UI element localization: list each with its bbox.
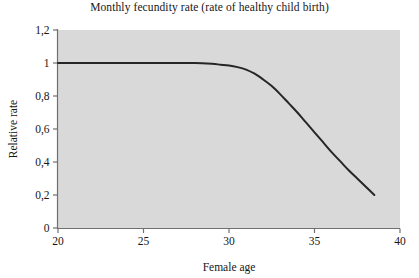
- plot-background: [58, 30, 400, 228]
- y-axis-ticks: 00,20,40,60,811,2: [35, 24, 57, 234]
- x-tick-label: 40: [394, 235, 406, 247]
- x-tick-label: 30: [223, 235, 235, 247]
- x-axis-ticks: 2025303540: [52, 229, 406, 247]
- x-tick-label: 25: [138, 235, 150, 247]
- y-tick-label: 0,6: [35, 123, 50, 136]
- fecundity-rate-line-chart: 00,20,40,60,811,2 2025303540 Female age …: [0, 0, 419, 278]
- y-tick-label: 1: [44, 57, 50, 69]
- chart-container: Monthly fecundity rate (rate of healthy …: [0, 0, 419, 278]
- y-tick-label: 0,4: [35, 156, 50, 169]
- y-tick-label: 0: [44, 222, 50, 234]
- y-tick-label: 0,8: [35, 90, 50, 103]
- y-tick-label: 1,2: [35, 24, 50, 37]
- y-tick-label: 0,2: [35, 189, 50, 202]
- y-axis-title: Relative rate: [7, 100, 19, 158]
- x-tick-label: 35: [309, 235, 321, 247]
- x-axis-title: Female age: [203, 261, 256, 274]
- x-tick-label: 20: [52, 235, 64, 247]
